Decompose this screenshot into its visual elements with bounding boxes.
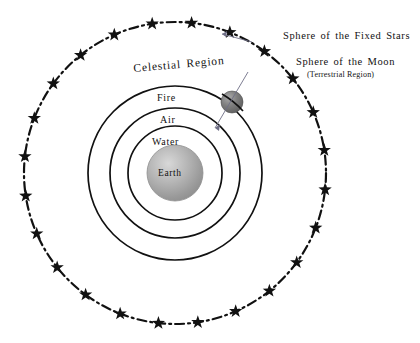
callout-leaders (215, 31, 252, 131)
label-earth: Earth (158, 168, 182, 178)
fixed-star (318, 143, 331, 156)
label-fire: Fire (157, 92, 176, 103)
cosmos-svg (0, 0, 420, 343)
label-air: Air (160, 114, 175, 125)
fixed-star (113, 307, 126, 320)
fixed-star (307, 105, 320, 118)
label-sphere-of-the-fixed-stars: Sphere of the Fixed Stars (283, 30, 410, 41)
moon-body (221, 91, 243, 113)
fixed-star (30, 227, 43, 240)
label-terrestrial-region: (Terrestrial Region) (307, 70, 374, 79)
leader-arrow-fixed-stars (222, 31, 227, 37)
fixed-star (152, 316, 165, 329)
leader-arrow-moon-sphere (215, 124, 220, 131)
label-sphere-of-the-moon: Sphere of the Moon (296, 56, 395, 67)
label-water: Water (152, 136, 179, 147)
fixed-star (185, 16, 198, 29)
fixed-star (108, 28, 121, 41)
fixed-star (19, 189, 32, 202)
fixed-star (146, 17, 159, 30)
fixed-star (229, 304, 242, 317)
cosmology-diagram: Sphere of the Fixed Stars Sphere of the … (0, 0, 420, 343)
fixed-star (28, 111, 41, 124)
fixed-star (309, 221, 322, 234)
fixed-star (191, 315, 204, 328)
